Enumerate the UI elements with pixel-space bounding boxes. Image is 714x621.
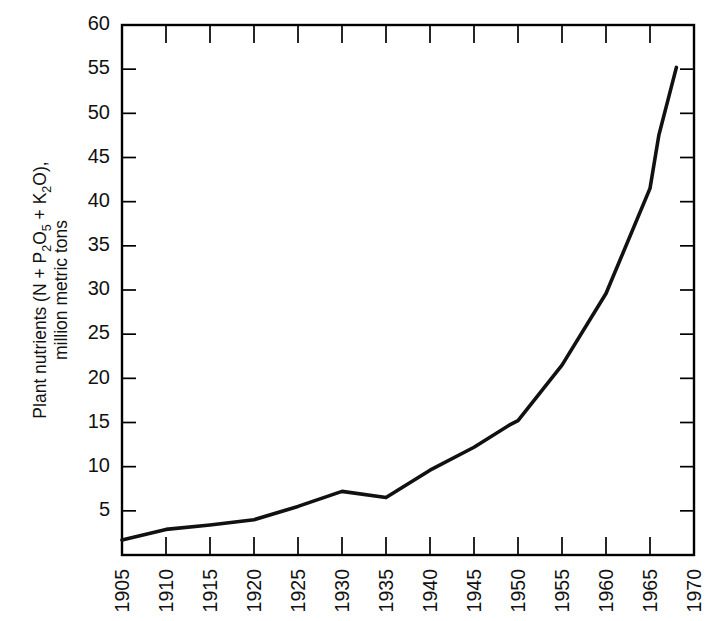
x-tick-label-1965: 1965 <box>639 569 661 613</box>
x-tick-label-1950: 1950 <box>507 569 529 613</box>
line-chart: 51015202530354045505560 1905191019151920… <box>0 0 714 621</box>
x-tick-label-1905: 1905 <box>111 569 133 613</box>
x-tick-label-1910: 1910 <box>155 569 177 613</box>
x-tick-label-1960: 1960 <box>595 569 617 613</box>
y-tick-label-5: 5 <box>99 498 110 520</box>
y-tick-label-25: 25 <box>88 321 110 343</box>
y-tick-label-10: 10 <box>88 454 110 476</box>
y-tick-label-30: 30 <box>88 277 110 299</box>
y-tick-label-40: 40 <box>88 189 110 211</box>
y-tick-label-60: 60 <box>88 12 110 34</box>
x-tick-label-1940: 1940 <box>419 569 441 613</box>
y-tick-label-35: 35 <box>88 233 110 255</box>
x-tick-label-1945: 1945 <box>463 569 485 613</box>
x-tick-label-1925: 1925 <box>287 569 309 613</box>
y-tick-label-20: 20 <box>88 366 110 388</box>
chart-container: 51015202530354045505560 1905191019151920… <box>0 0 714 621</box>
y-tick-label-55: 55 <box>88 56 110 78</box>
x-tick-label-1915: 1915 <box>199 569 221 613</box>
x-tick-label-1970: 1970 <box>683 569 705 613</box>
x-tick-label-1935: 1935 <box>375 569 397 613</box>
x-tick-label-1930: 1930 <box>331 569 353 613</box>
data-line-0 <box>122 67 676 540</box>
y-axis: 51015202530354045505560 <box>88 12 694 520</box>
y-tick-label-45: 45 <box>88 145 110 167</box>
x-tick-label-1920: 1920 <box>243 569 265 613</box>
data-series-group <box>122 67 676 540</box>
y-tick-label-50: 50 <box>88 101 110 123</box>
y-tick-label-15: 15 <box>88 410 110 432</box>
x-tick-label-1955: 1955 <box>551 569 573 613</box>
y-axis-title: Plant nutrients (N + P2O5 + K2O), millio… <box>30 161 71 418</box>
y-axis-title-line-2: million metric tons <box>51 220 71 360</box>
